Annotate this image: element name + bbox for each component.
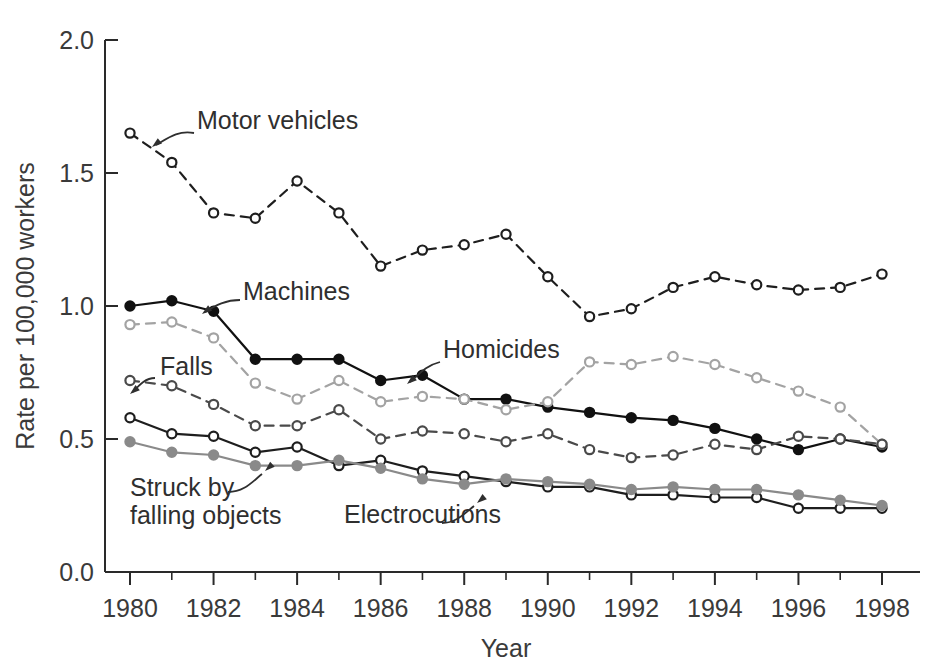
data-point [752,373,761,382]
y-axis-title: Rate per 100,000 workers [11,162,39,450]
data-point [460,240,469,249]
data-point [836,496,845,505]
x-tick-label: 1994 [687,594,743,622]
series-falls [125,376,886,462]
data-point [794,387,803,396]
data-point [794,504,803,513]
data-point [167,448,176,457]
series-electrocutions [125,413,886,513]
data-point [794,490,803,499]
data-point [209,450,218,459]
annotation-falls: Falls [160,352,213,380]
data-point [251,214,260,223]
data-point [585,445,594,454]
data-point [752,445,761,454]
x-tick-label: 1988 [436,594,492,622]
data-point [334,405,343,414]
x-axis-title: Year [481,634,532,661]
data-point [794,285,803,294]
data-point [669,416,678,425]
data-point [627,360,636,369]
data-point [293,355,302,364]
data-point [585,408,594,417]
data-point [125,320,134,329]
data-point [125,301,134,310]
data-point [125,437,134,446]
data-point [418,392,427,401]
data-point [543,397,552,406]
data-point [752,434,761,443]
data-point [501,437,510,446]
data-point [836,403,845,412]
data-point [251,421,260,430]
data-point [627,453,636,462]
data-point [669,482,678,491]
data-point [376,262,385,271]
data-point [334,208,343,217]
data-point [376,397,385,406]
y-tick-label: 0.0 [59,558,94,586]
data-point [794,432,803,441]
arrow-tip [263,462,275,474]
data-point [167,296,176,305]
data-point [752,485,761,494]
data-point [251,448,260,457]
annotation-struck-by-falling-objects-line2: falling objects [130,501,281,529]
data-point [543,272,552,281]
annotation-motor-vehicles: Motor vehicles [197,106,358,134]
annotation-arrowhead [263,462,275,474]
x-tick-label: 1996 [771,594,827,622]
data-point [167,158,176,167]
series-struck-by-falling-objects [125,437,886,510]
data-point [376,464,385,473]
data-point [710,424,719,433]
data-point [376,434,385,443]
series-motor-vehicles [125,129,886,322]
data-point [167,429,176,438]
data-point [125,376,134,385]
series-machines [125,296,886,454]
data-point [752,280,761,289]
y-tick-label: 1.0 [59,292,94,320]
annotation-electrocutions: Electrocutions [344,500,501,528]
data-point [167,317,176,326]
data-point [501,405,510,414]
y-tick-label: 2.0 [59,26,94,54]
data-point [460,395,469,404]
data-point [418,474,427,483]
data-point [501,395,510,404]
data-point [501,474,510,483]
data-point [460,480,469,489]
data-point [293,421,302,430]
data-point [293,395,302,404]
data-point [877,440,886,449]
data-point [334,355,343,364]
arrow-tip [150,138,162,150]
data-point [836,283,845,292]
data-point [794,445,803,454]
data-point [836,434,845,443]
data-point [627,485,636,494]
x-tick-label: 1980 [102,594,158,622]
data-point [334,456,343,465]
y-tick-label: 1.5 [59,159,94,187]
annotation-arrowhead [150,138,162,150]
data-point [293,442,302,451]
annotation-leader [156,132,194,145]
data-point [585,357,594,366]
data-point [585,480,594,489]
x-tick-label: 1992 [604,594,660,622]
series-line [130,301,882,450]
data-point [125,413,134,422]
data-point [710,485,719,494]
data-point [209,208,218,217]
data-point [460,429,469,438]
data-point [710,272,719,281]
y-tick-label: 0.5 [59,425,94,453]
data-point [251,355,260,364]
chart-canvas: 0.00.51.01.52.01980198219841986198819901… [0,0,941,661]
data-point [125,129,134,138]
data-point [334,376,343,385]
annotation-struck-by-falling-objects-line1: Struck by [130,473,235,501]
data-point [293,461,302,470]
